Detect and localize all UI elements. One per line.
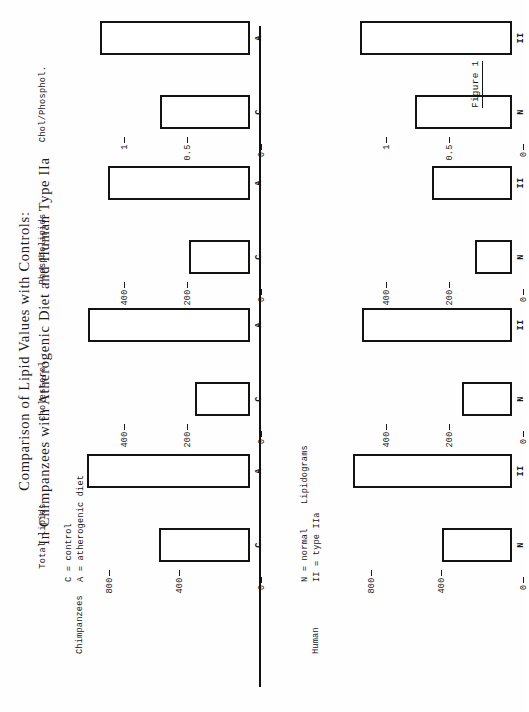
y-axis-tick: 400 — [382, 424, 392, 448]
bar-category-label: N — [516, 254, 526, 259]
y-axis-tick: 1 — [382, 137, 392, 150]
y-axis: 0.51 — [332, 137, 512, 167]
bar-group: 2004000NII — [302, 186, 512, 312]
y-axis-tick: 0.5 — [445, 137, 455, 161]
bar — [415, 95, 513, 129]
y-axis: 400800 — [70, 570, 250, 600]
y-axis-tick: 400 — [175, 570, 185, 594]
bar-series: NII — [332, 174, 512, 282]
bar — [189, 240, 250, 274]
bar-series: CA — [70, 29, 250, 137]
bar — [360, 21, 513, 55]
y-axis: 0.51 — [70, 137, 250, 167]
bar-group-label: Chol/Phosphol. — [38, 66, 48, 142]
bar-group: Total lipids4008000CA — [40, 472, 250, 600]
y-axis: 200400 — [332, 282, 512, 312]
bar — [195, 382, 250, 416]
y-axis-tick: 400 — [120, 282, 130, 306]
bar-group: 4008000NII — [302, 472, 512, 600]
y-axis-tick: 200 — [183, 424, 193, 448]
bar-category-label: II — [516, 33, 526, 44]
y-axis: 200400 — [70, 282, 250, 312]
y-axis-tick: 1 — [120, 137, 130, 150]
bar-series: NII — [332, 316, 512, 424]
y-axis-tick: 200 — [183, 282, 193, 306]
bar-category-label: II — [516, 178, 526, 189]
bar-group: Chol/Phosphol.0.510CA — [40, 41, 250, 167]
bar — [159, 528, 250, 562]
bar — [353, 454, 512, 488]
y-axis-zero-tick: 0 — [519, 289, 529, 302]
bar-category-label: N — [516, 396, 526, 401]
y-axis-tick: 400 — [437, 570, 447, 594]
bar-group-label: Phospholipids — [38, 214, 48, 285]
y-axis-zero-tick: 0 — [519, 577, 529, 590]
bar-category-label: II — [516, 320, 526, 331]
y-axis-tick: 800 — [105, 570, 115, 594]
bar-series: NII — [332, 462, 512, 570]
y-axis: 200400 — [70, 424, 250, 454]
y-axis-tick: 200 — [445, 282, 455, 306]
bar-group: Cholesterol2004000CA — [40, 328, 250, 454]
y-axis-zero-tick: 0 — [519, 431, 529, 444]
y-axis-tick: 400 — [382, 282, 392, 306]
y-axis-tick: 200 — [445, 424, 455, 448]
bar-series: CA — [70, 462, 250, 570]
bar-series: NII — [332, 29, 512, 137]
y-axis-tick: 0.5 — [183, 137, 193, 161]
bar-category-label: N — [516, 542, 526, 547]
bar-series: CA — [70, 174, 250, 282]
bar — [88, 308, 251, 342]
bar-series: CA — [70, 316, 250, 424]
y-axis: 200400 — [332, 424, 512, 454]
bar — [475, 240, 513, 274]
y-axis-zero-tick: 0 — [519, 144, 529, 157]
bar — [160, 95, 250, 129]
bar — [362, 308, 512, 342]
y-axis-tick: 800 — [367, 570, 377, 594]
y-axis-tick: 400 — [120, 424, 130, 448]
bar-category-label: II — [516, 466, 526, 477]
bar — [108, 166, 250, 200]
bar-group-label: Cholesterol — [38, 361, 48, 421]
bar — [442, 528, 512, 562]
figure-caption: Figure 1 — [470, 61, 483, 108]
bar-group-label: Total lipids — [38, 503, 48, 569]
bar — [432, 166, 512, 200]
y-axis: 400800 — [332, 570, 512, 600]
bar-group: Phospholipids2004000CA — [40, 186, 250, 312]
bar — [87, 454, 250, 488]
bar — [462, 382, 512, 416]
bar-category-label: N — [516, 109, 526, 114]
panel-chimpanzees: Total lipids4008000CACholesterol2004000C… — [0, 0, 250, 712]
bar-group: 2004000NII — [302, 328, 512, 454]
bar — [100, 21, 250, 55]
